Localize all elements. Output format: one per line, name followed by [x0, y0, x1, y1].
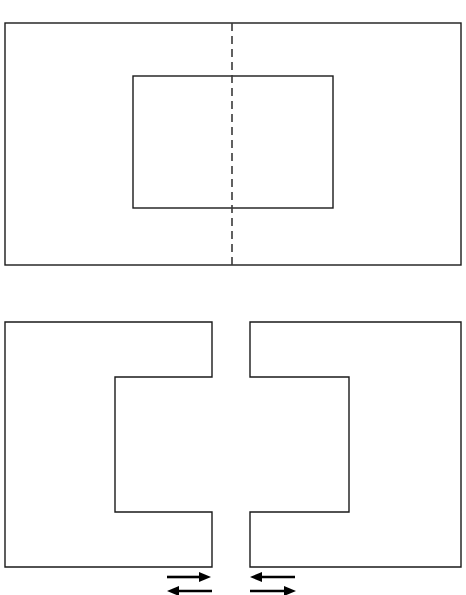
- technical-drawing-svg: [0, 0, 466, 595]
- arrow-left-group-top-head: [199, 572, 211, 582]
- bottom-view-group: [5, 322, 461, 567]
- right-c-block: [250, 322, 461, 567]
- top-view-group: [5, 23, 461, 265]
- arrow-right-group-bottom-head: [284, 586, 296, 595]
- motion-arrow-group: [167, 572, 296, 595]
- left-c-block: [5, 322, 212, 567]
- arrow-right-group-bottom: [250, 586, 296, 595]
- arrow-left-group-bottom-head: [167, 586, 179, 595]
- arrow-right-group-top-head: [250, 572, 262, 582]
- arrow-left-group-top: [167, 572, 211, 582]
- arrow-left-group-bottom: [167, 586, 212, 595]
- top-view-inner-rectangle: [133, 76, 333, 208]
- arrow-right-group-top: [250, 572, 295, 582]
- drawing-canvas: [0, 0, 466, 595]
